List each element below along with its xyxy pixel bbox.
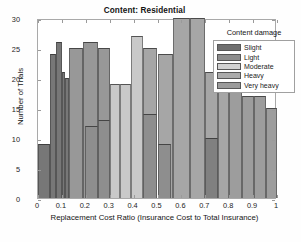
x-tick-mark xyxy=(86,195,87,198)
legend-label: Light xyxy=(244,53,259,62)
x-tick-mark xyxy=(86,20,87,23)
x-tick-mark xyxy=(229,20,230,23)
histogram-bar xyxy=(266,108,277,198)
legend-swatch-icon xyxy=(217,72,241,79)
x-tick-mark xyxy=(38,20,39,23)
histogram-bar xyxy=(218,84,229,198)
histogram-bar xyxy=(254,96,266,198)
x-tick-mark xyxy=(110,20,111,23)
x-tick-mark xyxy=(253,20,254,23)
y-tick-label: 5 xyxy=(0,165,20,174)
histogram-bar xyxy=(131,36,143,198)
chart-title: Content: Residential xyxy=(0,6,295,15)
legend-item[interactable]: Slight xyxy=(216,43,292,52)
x-tick-mark xyxy=(229,195,230,198)
histogram-bar xyxy=(120,84,131,198)
histogram-bar-overlay xyxy=(98,120,110,198)
legend-label: Slight xyxy=(244,43,262,52)
legend-swatch-icon xyxy=(217,44,241,51)
x-tick-mark xyxy=(62,20,63,23)
histogram-bar xyxy=(173,18,190,198)
legend-item[interactable]: Very heavy xyxy=(216,81,292,90)
y-tick-label: 15 xyxy=(0,105,20,114)
x-tick-mark xyxy=(158,20,159,23)
x-tick-mark xyxy=(181,195,182,198)
y-tick-label: 10 xyxy=(0,135,20,144)
chart-figure: Content: Residential Number of Trials 05… xyxy=(0,0,301,242)
legend-label: Moderate xyxy=(244,62,274,71)
y-tick-label: 20 xyxy=(0,75,20,84)
x-tick-mark xyxy=(253,195,254,198)
histogram-bar xyxy=(69,48,83,198)
x-tick-mark xyxy=(62,195,63,198)
legend-title: Content damage xyxy=(208,28,300,37)
histogram-bar-overlay xyxy=(205,138,218,198)
y-tick-mark xyxy=(38,80,41,81)
x-tick-mark xyxy=(134,195,135,198)
y-tick-mark xyxy=(272,20,275,21)
x-tick-mark xyxy=(38,195,39,198)
x-tick-mark xyxy=(110,195,111,198)
y-tick-label: 0 xyxy=(0,195,20,204)
legend-label: Very heavy xyxy=(244,81,279,90)
histogram-bar xyxy=(242,96,254,198)
legend-swatch-icon xyxy=(217,54,241,61)
y-tick-mark xyxy=(38,170,41,171)
legend-label: Heavy xyxy=(244,71,264,80)
histogram-bar xyxy=(190,18,206,198)
histogram-bar-overlay xyxy=(143,114,157,198)
histogram-bar xyxy=(110,84,121,198)
x-tick-mark xyxy=(181,20,182,23)
y-tick-mark xyxy=(272,110,275,111)
x-tick-mark xyxy=(277,195,278,198)
x-tick-mark xyxy=(205,195,206,198)
y-tick-mark xyxy=(272,140,275,141)
x-tick-mark xyxy=(205,20,206,23)
x-tick-mark xyxy=(158,195,159,198)
legend-swatch-icon xyxy=(217,63,241,70)
legend: SlightLightModerateHeavyVery heavy xyxy=(213,40,295,93)
y-tick-label: 25 xyxy=(0,45,20,54)
histogram-bar-overlay xyxy=(85,126,98,198)
y-tick-mark xyxy=(38,140,41,141)
x-tick-label: 1 xyxy=(261,201,291,210)
y-tick-label: 30 xyxy=(0,15,20,24)
y-tick-mark xyxy=(38,110,41,111)
legend-item[interactable]: Heavy xyxy=(216,71,292,80)
histogram-bar-overlay xyxy=(158,144,171,198)
x-tick-mark xyxy=(134,20,135,23)
x-tick-mark xyxy=(277,20,278,23)
legend-item[interactable]: Moderate xyxy=(216,62,292,71)
legend-item[interactable]: Light xyxy=(216,52,292,61)
histogram-bar xyxy=(38,144,50,198)
x-axis-label: Replacement Cost Ratio (Insurance Cost t… xyxy=(4,213,301,222)
y-tick-mark xyxy=(272,170,275,171)
y-tick-mark xyxy=(38,50,41,51)
legend-swatch-icon xyxy=(217,82,241,89)
